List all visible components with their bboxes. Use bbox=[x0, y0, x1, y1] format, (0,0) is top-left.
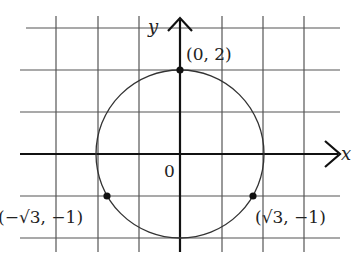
origin-label: 0 bbox=[164, 161, 175, 181]
y-axis-label: y bbox=[147, 16, 159, 37]
point-label-neg-sqrt3-neg1: (−√3, −1) bbox=[0, 207, 83, 227]
x-axis-label: x bbox=[341, 143, 351, 164]
point-label-sqrt3-neg1: (√3, −1) bbox=[255, 207, 326, 227]
point-label-0-2: (0, 2) bbox=[186, 44, 232, 64]
coordinate-diagram: y x 0 (0, 2) (−√3, −1) (√3, −1) bbox=[0, 0, 354, 257]
point-neg-sqrt3-neg1 bbox=[103, 192, 110, 199]
point-0-2 bbox=[176, 66, 183, 73]
point-sqrt3-neg1 bbox=[249, 192, 256, 199]
